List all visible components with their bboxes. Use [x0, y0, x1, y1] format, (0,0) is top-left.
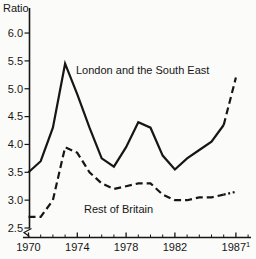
x-tick-label: 1982	[163, 241, 187, 253]
chart-canvas: 2.53.03.54.04.55.05.56.01970197419781982…	[0, 0, 256, 259]
y-tick-label: 3.0	[8, 194, 23, 206]
x-tick-label: 1974	[65, 241, 89, 253]
x-tick-label: 1978	[114, 241, 138, 253]
series-line-london-and-the-south-east	[29, 64, 224, 173]
ratio-line-chart: 2.53.03.54.04.55.05.56.01970197419781982…	[0, 0, 256, 259]
y-tick-label: 4.5	[8, 110, 23, 122]
x-tick-label: 1970	[16, 241, 40, 253]
x-tick-label: 19871	[222, 240, 251, 253]
y-tick-label: 5.5	[8, 55, 23, 67]
y-axis-break	[24, 229, 32, 237]
series-projection-rest-of-britain	[224, 192, 236, 195]
series-projection-london-and-the-south-east	[224, 78, 236, 125]
y-axis-title: Ratio	[3, 2, 29, 14]
series-label-london: London and the South East	[76, 64, 209, 76]
series-label-rest: Rest of Britain	[84, 203, 153, 215]
y-tick-label: 4.0	[8, 138, 23, 150]
y-tick-label: 5.0	[8, 83, 23, 95]
y-tick-label: 3.5	[8, 166, 23, 178]
y-tick-label: 2.5	[8, 222, 23, 234]
y-tick-label: 6.0	[8, 27, 23, 39]
